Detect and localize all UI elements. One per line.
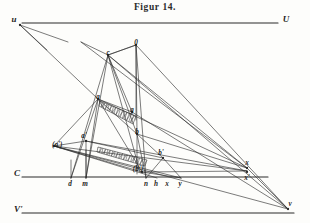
figure-page: Figur 14. uU0cagba'(a')b'(b')Cdmnhxyxx'V… <box>0 0 310 223</box>
vertex-dot-bprime <box>162 157 164 159</box>
label-g: g <box>129 106 134 114</box>
bparen-to-x <box>142 171 247 172</box>
label-xprime: x' <box>243 174 250 182</box>
label-v: v <box>288 200 292 208</box>
aparen-to-x <box>54 146 247 171</box>
vertex-dot-aprime <box>85 140 87 142</box>
x-to-v <box>247 168 288 209</box>
label-u: u <box>11 14 16 24</box>
a-to-aparen <box>54 99 98 146</box>
label-n: n <box>144 180 148 188</box>
label-x_low: x <box>164 180 169 188</box>
label-C: C <box>14 168 21 178</box>
b-to-x <box>137 134 247 168</box>
hatched-strips-group <box>97 101 147 166</box>
point-labels-group: uU0cagba'(a')b'(b')Cdmnhxyxx'V'v <box>11 14 292 214</box>
label-x: x <box>244 159 249 167</box>
label-O: 0 <box>134 39 138 47</box>
horizon-lines-group <box>22 23 294 213</box>
vertex-dot-u <box>19 24 21 26</box>
vertex-dot-x <box>246 167 248 169</box>
label-bparen: (b') <box>133 165 143 173</box>
vertex-dot-xprime <box>246 171 248 173</box>
label-d: d <box>68 180 72 188</box>
c-upleft <box>81 42 108 55</box>
g-to-v <box>132 112 288 209</box>
u-to-a <box>20 25 98 99</box>
u-ray-1 <box>20 25 68 42</box>
c-to-g <box>108 55 132 112</box>
label-bprime: b' <box>158 149 164 157</box>
a-to-m <box>86 99 98 178</box>
label-c: c <box>106 49 110 57</box>
O-to-c-down <box>108 45 136 55</box>
label-aparen: (a') <box>52 141 62 149</box>
label-m: m <box>82 180 88 188</box>
label-Vprime: V' <box>14 204 23 214</box>
figure-drawing: uU0cagba'(a')b'(b')Cdmnhxyxx'V'v <box>0 0 310 223</box>
label-h: h <box>154 180 158 188</box>
vertex-dot-v <box>287 208 289 210</box>
label-b: b <box>135 128 139 136</box>
label-U: U <box>283 14 290 24</box>
label-y: y <box>177 180 182 188</box>
label-aprime: a' <box>81 132 87 140</box>
label-a: a <box>96 93 100 101</box>
